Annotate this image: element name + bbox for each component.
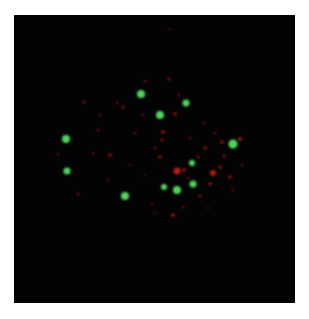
red-spot: [241, 164, 244, 167]
green-spot: [62, 135, 70, 143]
red-spot: [82, 100, 86, 104]
red-spot: [158, 155, 162, 159]
red-spot: [207, 207, 210, 210]
red-spot: [228, 175, 232, 179]
red-spot: [214, 132, 217, 135]
red-spot: [178, 94, 181, 97]
red-spot: [151, 203, 154, 206]
red-spot: [77, 193, 80, 196]
red-spot: [116, 102, 119, 105]
red-spot: [92, 152, 95, 155]
red-puncta: [57, 28, 244, 217]
green-spot: [121, 192, 129, 200]
red-spot: [134, 132, 137, 135]
red-spot: [129, 164, 132, 167]
red-spot: [154, 147, 157, 150]
red-spot: [121, 105, 125, 109]
red-spot: [222, 154, 226, 158]
red-spot: [203, 122, 206, 125]
red-spot: [238, 137, 242, 141]
red-spot: [182, 206, 185, 209]
green-spot: [173, 186, 181, 194]
red-spot: [174, 168, 181, 175]
red-spot: [169, 28, 171, 30]
red-spot: [57, 153, 60, 156]
green-spot: [161, 184, 167, 190]
red-spot: [187, 177, 190, 180]
red-spot: [208, 182, 212, 186]
red-spot: [189, 137, 192, 140]
fluorescence-spots-layer: [0, 0, 309, 319]
red-spot: [107, 179, 110, 182]
red-spot: [144, 174, 147, 177]
red-spot: [210, 170, 216, 176]
green-spot: [229, 140, 238, 149]
red-spot: [173, 112, 177, 116]
red-spot: [220, 140, 224, 144]
red-spot: [142, 114, 145, 117]
green-spot: [156, 111, 164, 119]
red-spot: [182, 168, 186, 172]
red-spot: [171, 213, 175, 217]
red-spot: [154, 212, 157, 215]
red-spot: [203, 146, 207, 150]
red-spot: [196, 155, 200, 159]
green-spot: [189, 160, 195, 166]
green-spot: [64, 168, 71, 175]
red-spot: [161, 130, 165, 134]
red-spot: [218, 165, 222, 169]
red-spot: [144, 80, 147, 83]
red-spot: [108, 153, 112, 157]
red-spot: [232, 189, 235, 192]
green-spot: [190, 181, 197, 188]
green-spot: [183, 100, 190, 107]
red-spot: [167, 77, 171, 81]
red-spot: [160, 138, 164, 142]
red-spot: [99, 114, 102, 117]
red-spot: [97, 129, 100, 132]
green-spot: [137, 90, 145, 98]
red-spot: [198, 194, 202, 198]
